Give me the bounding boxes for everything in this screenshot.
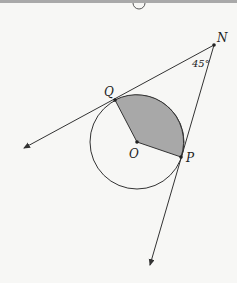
geometry-diagram: N Q O P 45°: [0, 0, 237, 283]
point-n: [212, 43, 216, 47]
top-notch-arc: [133, 3, 145, 9]
point-o: [135, 140, 139, 144]
label-n: N: [216, 31, 228, 45]
tangent-line-nq: [24, 45, 214, 148]
label-o: O: [129, 147, 139, 161]
point-p: [179, 155, 183, 159]
label-p: P: [185, 151, 195, 165]
tangent-line-np: [150, 45, 214, 265]
shaded-sector: [115, 95, 184, 157]
label-q: Q: [104, 85, 114, 99]
angle-label: 45°: [191, 58, 210, 69]
